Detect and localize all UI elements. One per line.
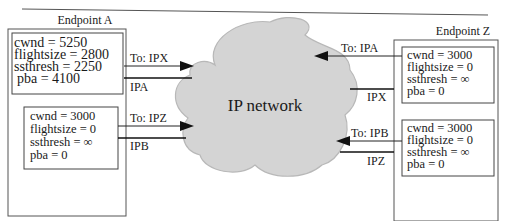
state-line: pba = 0 (407, 84, 445, 98)
endpoint-a: Endpoint A cwnd = 5250 flightsize = 2800… (8, 13, 126, 216)
link-label: To: IPX (130, 51, 168, 65)
link-label: IPX (367, 90, 387, 104)
state-line: pba = 0 (30, 148, 68, 162)
link-label: IPA (130, 80, 149, 94)
state-line: pba = 4100 (17, 71, 80, 86)
link-label: To: IPA (341, 41, 378, 55)
link-label: To: IPB (351, 126, 389, 140)
endpoint-z: Endpoint Z cwnd = 3000 flightsize = 0 ss… (394, 24, 498, 221)
network-label: IP network (228, 96, 303, 115)
endpoint-z-title: Endpoint Z (436, 24, 490, 38)
state-line: ssthresh = ∞ (30, 135, 93, 149)
link-label: To: IPZ (130, 111, 167, 125)
link-label: IPB (130, 139, 149, 153)
state-line: cwnd = 3000 (30, 109, 95, 123)
state-line: pba = 0 (407, 157, 445, 171)
endpoint-a-title: Endpoint A (57, 13, 112, 27)
multihoming-diagram: IP network Endpoint A cwnd = 5250 flight… (0, 0, 506, 221)
link-label: IPZ (367, 154, 385, 168)
state-line: flightsize = 0 (30, 122, 96, 136)
ip-network-cloud: IP network (175, 18, 357, 177)
